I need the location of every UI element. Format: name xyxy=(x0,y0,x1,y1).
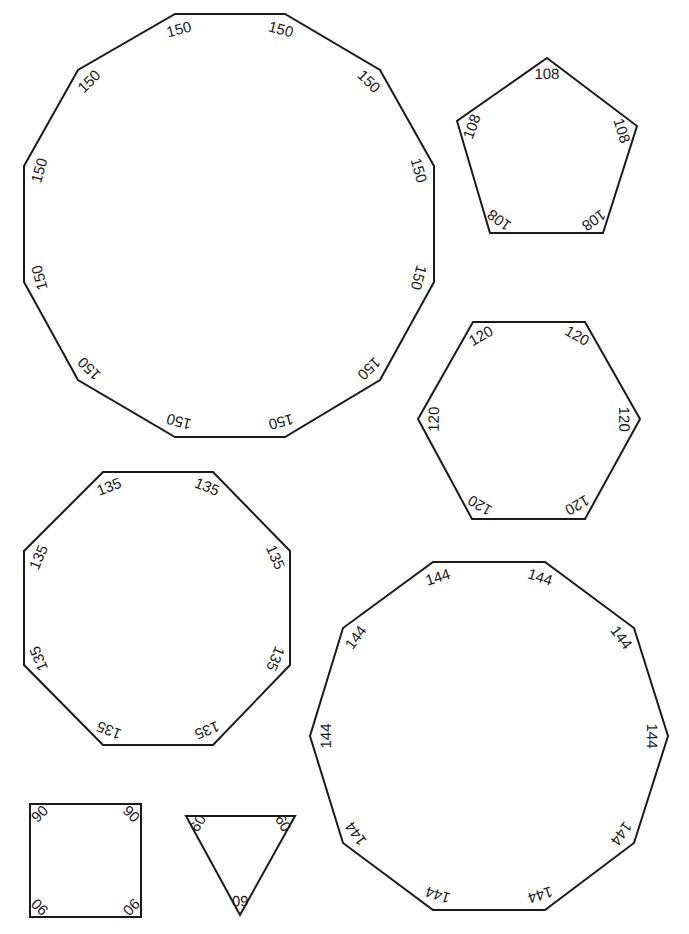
angle-label: 144 xyxy=(644,723,661,748)
angle-label: 150 xyxy=(407,263,430,292)
angle-label: 150 xyxy=(267,18,296,41)
angle-label: 144 xyxy=(526,565,555,589)
angle-label: 144 xyxy=(423,565,452,589)
dodecagon-shape: 150150150150150150150150150150150150 xyxy=(24,14,434,437)
angle-label: 120 xyxy=(616,407,633,432)
angle-label: 108 xyxy=(534,65,559,82)
angle-label: 144 xyxy=(526,883,555,907)
angle-label: 60 xyxy=(186,811,209,834)
pentagon-shape: 108108108108108 xyxy=(457,58,637,235)
decagon-outline xyxy=(310,562,668,910)
angle-label: 150 xyxy=(267,411,296,434)
angle-label: 150 xyxy=(408,156,431,185)
angle-label: 150 xyxy=(165,411,193,434)
octagon-outline xyxy=(24,472,290,745)
angle-label: 150 xyxy=(165,18,193,41)
angle-label: 90 xyxy=(120,895,144,919)
pentagon-outline xyxy=(457,58,637,233)
angle-label: 90 xyxy=(28,802,52,826)
angle-label: 120 xyxy=(425,407,442,432)
angle-label: 150 xyxy=(27,263,50,292)
square-shape: 90909090 xyxy=(28,802,144,920)
decagon-shape: 144144144144144144144144144144 xyxy=(310,562,668,910)
hexagon-shape: 120120120120120120 xyxy=(418,322,640,519)
angle-label: 90 xyxy=(28,895,52,919)
triangle-shape: 606060 xyxy=(186,811,295,915)
polygon-angles-diagram: 1501501501501501501501501501501501501081… xyxy=(0,0,689,934)
square-outline xyxy=(30,804,141,917)
angle-label: 60 xyxy=(272,811,295,834)
octagon-shape: 135135135135135135135135 xyxy=(24,472,290,745)
hexagon-outline xyxy=(418,322,640,519)
angle-label: 144 xyxy=(317,723,334,748)
angle-label: 90 xyxy=(120,802,144,826)
angle-label: 144 xyxy=(423,883,452,907)
angle-label: 60 xyxy=(232,893,249,910)
angle-label: 150 xyxy=(27,156,50,185)
shapes-layer: 1501501501501501501501501501501501501081… xyxy=(24,14,668,919)
